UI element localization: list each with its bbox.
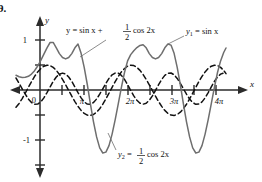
x-axis-label: x: [249, 79, 254, 89]
math-figure: 9.: [0, 0, 262, 182]
annotation-y1-text: y1 = sin x: [185, 26, 219, 37]
annotation-y1-equation: = sin x: [193, 26, 219, 36]
annotation-sum-curve: y = sin x + 1 2 cos 2x: [66, 22, 156, 58]
x-tick-label-pi: π: [80, 96, 85, 106]
annotation-sum-frac-numerator: 1: [125, 22, 129, 32]
annotation-sum-leader-line: [80, 40, 106, 57]
annotation-y2-text: y2 =: [117, 149, 132, 160]
y-tick-label-0: 0: [32, 95, 36, 105]
y-tick-label-neg1: -1: [23, 135, 30, 145]
y-tick-label-1: 1: [23, 35, 27, 45]
annotation-sum-text: y = sin x +: [66, 25, 103, 35]
annotation-y1-leader-line: [168, 36, 184, 44]
x-axis-arrow-right: [238, 86, 248, 94]
x-tick-label-2pi: 2π: [126, 96, 135, 106]
annotation-y2-suffix: cos 2x: [147, 149, 170, 159]
annotation-y2-frac-denominator: 2: [139, 156, 143, 166]
x-tick-label-4pi: 4π: [215, 96, 224, 106]
annotation-sum-frac-denominator: 2: [125, 32, 129, 42]
plot-canvas: y x 1 0 -1 π 2π 3π 4π y = sin x + 1 2 co…: [0, 0, 262, 182]
annotation-y2-frac-numerator: 1: [139, 146, 143, 156]
y-axis-arrow-up: [36, 16, 44, 26]
annotation-y2-equals: =: [125, 149, 132, 159]
curve-sum-sin-plus-half-cos2x: [16, 42, 226, 153]
annotation-y2: y2 = 1 2 cos 2x: [108, 133, 170, 166]
y-axis-label: y: [44, 15, 49, 25]
x-axis-arrow-left: [10, 86, 20, 94]
y-axis-arrow-down: [36, 168, 44, 178]
annotation-sum-suffix: cos 2x: [133, 25, 156, 35]
annotation-sum-prefix: y = sin x +: [66, 25, 103, 35]
annotation-y1: y1 = sin x: [168, 26, 219, 44]
x-tick-label-3pi: 3π: [169, 96, 179, 106]
